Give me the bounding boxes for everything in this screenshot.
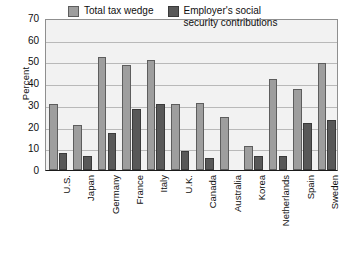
bar-group-spain xyxy=(293,20,311,170)
legend-label-total-tax-wedge: Total tax wedge xyxy=(84,5,154,17)
bar-total-tax-wedge xyxy=(220,117,229,170)
legend-swatch-total-tax-wedge xyxy=(68,6,79,17)
bar-group-japan xyxy=(73,20,91,170)
plot-area xyxy=(45,19,338,171)
bar-group-u-k xyxy=(171,20,189,170)
x-axis-tick-labels: U.S.JapanGermanyFranceItalyU.K.CanadaAus… xyxy=(45,171,338,255)
bar-group-sweden xyxy=(318,20,336,170)
x-tick-u-k: U.K. xyxy=(184,175,194,193)
x-tick-canada: Canada xyxy=(208,175,218,208)
bar-employer-contributions xyxy=(83,156,92,170)
x-tick-netherlands: Netherlands xyxy=(281,175,291,226)
bar-total-tax-wedge xyxy=(147,60,156,170)
x-tick-korea: Korea xyxy=(257,175,267,200)
bar-total-tax-wedge xyxy=(73,125,82,170)
x-tick-france: France xyxy=(135,175,145,205)
y-tick-50: 50 xyxy=(28,57,39,67)
bar-total-tax-wedge xyxy=(318,63,327,170)
x-tick-australia: Australia xyxy=(233,175,243,212)
y-tick-60: 60 xyxy=(28,36,39,46)
y-tick-40: 40 xyxy=(28,79,39,89)
bar-total-tax-wedge xyxy=(49,104,58,170)
bar-group-korea xyxy=(244,20,262,170)
bar-employer-contributions xyxy=(181,151,190,170)
bar-employer-contributions xyxy=(156,104,165,170)
x-tick-sweden: Sweden xyxy=(330,175,340,209)
bar-chart-figure: Percent 010203040506070 U.S.JapanGermany… xyxy=(0,0,360,255)
bar-employer-contributions xyxy=(279,156,288,170)
legend-label-employer-contributions: Employer's social security contributions xyxy=(184,5,278,28)
legend-entry-total-tax-wedge: Total tax wedge xyxy=(68,5,154,17)
bar-total-tax-wedge xyxy=(196,103,205,170)
bar-total-tax-wedge xyxy=(293,89,302,170)
y-tick-70: 70 xyxy=(28,14,39,24)
y-tick-20: 20 xyxy=(28,123,39,133)
x-tick-italy: Italy xyxy=(159,175,169,192)
bar-group-france xyxy=(122,20,140,170)
chart-legend: Total tax wedge Employer's social securi… xyxy=(68,5,277,28)
legend-swatch-employer-contributions xyxy=(168,6,179,17)
y-tick-30: 30 xyxy=(28,101,39,111)
bar-group-u-s xyxy=(49,20,67,170)
y-axis-tick-labels: 010203040506070 xyxy=(0,0,45,255)
y-tick-10: 10 xyxy=(28,144,39,154)
bar-series-layer xyxy=(46,20,337,170)
bar-total-tax-wedge xyxy=(244,146,253,170)
bar-employer-contributions xyxy=(108,133,117,170)
bar-group-italy xyxy=(147,20,165,170)
bar-group-canada xyxy=(196,20,214,170)
bar-employer-contributions xyxy=(205,158,214,170)
legend-entry-employer-contributions: Employer's social security contributions xyxy=(168,5,278,28)
bar-employer-contributions xyxy=(254,156,263,170)
bar-total-tax-wedge xyxy=(269,79,278,170)
bar-total-tax-wedge xyxy=(122,65,131,170)
bar-group-australia xyxy=(220,20,238,170)
bar-employer-contributions xyxy=(59,153,68,170)
x-tick-germany: Germany xyxy=(111,175,121,214)
bar-employer-contributions xyxy=(303,123,312,170)
bar-employer-contributions xyxy=(327,120,336,170)
x-tick-u-s: U.S. xyxy=(62,175,72,193)
bar-group-netherlands xyxy=(269,20,287,170)
x-tick-spain: Spain xyxy=(306,175,316,199)
bar-total-tax-wedge xyxy=(171,104,180,170)
y-tick-0: 0 xyxy=(33,166,39,176)
x-tick-japan: Japan xyxy=(86,175,96,201)
bar-group-germany xyxy=(98,20,116,170)
bar-employer-contributions xyxy=(132,109,141,170)
bar-total-tax-wedge xyxy=(98,57,107,170)
